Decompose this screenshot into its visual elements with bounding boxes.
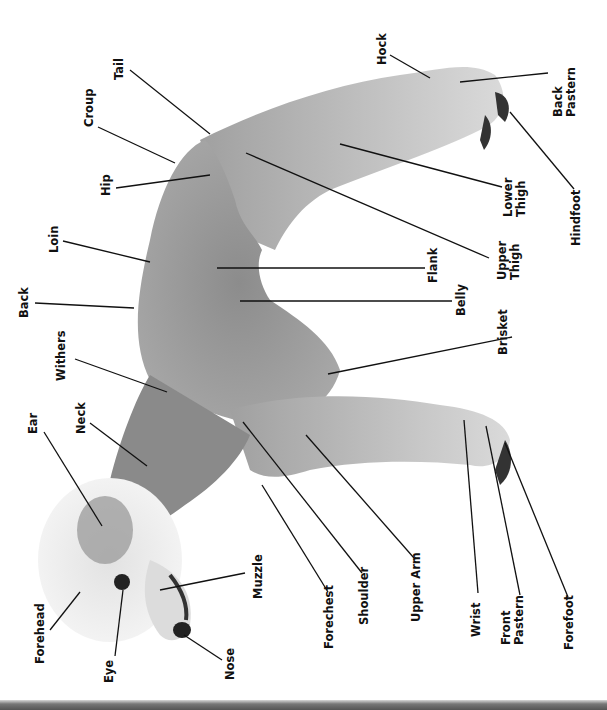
- leader-line-loin: [63, 241, 150, 262]
- label-hip: Hip: [100, 174, 113, 196]
- leader-line-brisket: [328, 337, 512, 374]
- label-front-pastern: Front Pastern: [500, 595, 526, 645]
- label-withers: Withers: [55, 330, 68, 381]
- eye: [114, 574, 130, 590]
- hind-leg: [200, 67, 503, 250]
- label-neck: Neck: [75, 402, 88, 434]
- label-muzzle: Muzzle: [252, 554, 265, 599]
- label-forechest: Forechest: [323, 585, 336, 649]
- leader-line-back: [35, 303, 134, 308]
- label-brisket: Brisket: [497, 309, 510, 355]
- label-eye: Eye: [103, 660, 116, 683]
- label-forefoot: Forefoot: [563, 595, 576, 650]
- label-croup: Croup: [83, 89, 96, 127]
- leader-line-forefoot: [505, 443, 568, 597]
- label-upper-thigh: Upper Thigh: [496, 241, 522, 280]
- leader-line-tail: [130, 70, 210, 134]
- label-back-pastern: Back Pastern: [552, 67, 578, 117]
- label-tail: Tail: [113, 58, 126, 80]
- page-edge: [0, 700, 607, 710]
- label-lower-thigh: Lower Thigh: [502, 178, 528, 217]
- label-ear: Ear: [27, 413, 40, 434]
- label-back: Back: [18, 287, 31, 318]
- label-loin: Loin: [48, 226, 61, 253]
- leader-line-croup: [98, 127, 175, 163]
- label-upper-arm: Upper Arm: [410, 552, 423, 622]
- label-belly: Belly: [455, 284, 468, 316]
- ear: [77, 496, 133, 564]
- leader-line-forechest: [262, 485, 328, 592]
- label-forehead: Forehead: [34, 603, 47, 664]
- label-hock: Hock: [376, 33, 389, 65]
- label-hindfoot: Hindfoot: [570, 190, 583, 246]
- diagram-page: TailCroupHipLoinBackWithersNeckEarForehe…: [0, 0, 607, 700]
- nose: [173, 622, 191, 638]
- label-flank: Flank: [427, 248, 440, 283]
- label-nose: Nose: [224, 648, 237, 680]
- label-shoulder: Shoulder: [358, 567, 371, 625]
- label-wrist: Wrist: [470, 603, 483, 637]
- leader-line-nose: [184, 635, 222, 660]
